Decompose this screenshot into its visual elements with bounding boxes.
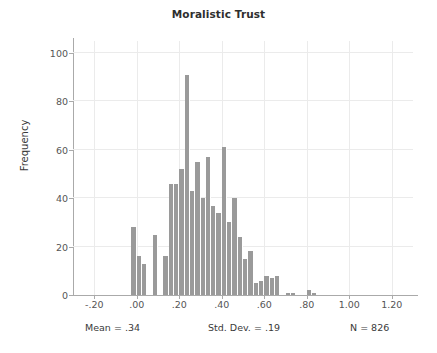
gridline-vertical — [307, 41, 308, 295]
y-axis-tick-mark — [69, 101, 73, 102]
y-axis-tick-label: 100 — [34, 48, 68, 59]
gridline-vertical — [349, 41, 350, 295]
histogram-bar — [153, 235, 158, 295]
y-axis-tick-mark — [69, 53, 73, 54]
y-axis-tick-labels: 020406080100 — [30, 41, 68, 295]
x-axis-line — [73, 295, 418, 296]
gridline-horizontal — [73, 52, 413, 53]
y-axis-tick-label: 80 — [34, 96, 68, 107]
x-axis-tick-mark — [264, 295, 265, 299]
x-axis-tick-mark — [392, 295, 393, 299]
chart-title: Moralistic Trust — [0, 8, 437, 20]
x-axis-tick-label: .60 — [241, 299, 287, 310]
x-axis-tick-label: .40 — [199, 299, 245, 310]
stat-mean: Mean = .34 — [85, 322, 140, 333]
x-axis-tick-mark — [179, 295, 180, 299]
gridline-vertical — [94, 41, 95, 295]
histogram-bar — [312, 293, 317, 295]
stat-std-dev: Std. Dev. = .19 — [208, 322, 280, 333]
x-axis-tick-mark — [307, 295, 308, 299]
y-axis-tick-label: 40 — [34, 193, 68, 204]
histogram-figure: Moralistic Trust Frequency 020406080100 … — [0, 0, 437, 353]
histogram-bar — [291, 293, 296, 295]
gridline-horizontal — [73, 100, 413, 101]
gridline-horizontal — [73, 149, 413, 150]
y-axis-tick-mark — [69, 295, 73, 296]
histogram-bar — [142, 264, 147, 295]
gridline-vertical — [392, 41, 393, 295]
gridline-vertical — [264, 41, 265, 295]
histogram-bar — [275, 276, 280, 295]
y-axis-tick-mark — [69, 198, 73, 199]
gridline-horizontal — [73, 197, 413, 198]
x-axis-tick-label: .20 — [156, 299, 202, 310]
gridline-horizontal — [73, 246, 413, 247]
footer-statistics: Mean = .34 Std. Dev. = .19 N = 826 — [60, 322, 420, 338]
x-axis-tick-label: .80 — [284, 299, 330, 310]
y-axis-tick-label: 60 — [34, 144, 68, 155]
y-axis-tick-label: 20 — [34, 241, 68, 252]
x-axis-tick-label: -.20 — [71, 299, 117, 310]
y-axis-tick-label: 0 — [34, 290, 68, 301]
y-axis-tick-mark — [69, 150, 73, 151]
stat-sample-size: N = 826 — [350, 322, 389, 333]
x-axis-tick-mark — [349, 295, 350, 299]
x-axis-tick-label: .00 — [114, 299, 160, 310]
y-axis-tick-mark — [69, 247, 73, 248]
x-axis-tick-label: 1.00 — [326, 299, 372, 310]
x-axis-tick-mark — [137, 295, 138, 299]
y-axis-label: Frequency — [19, 101, 30, 191]
x-axis-tick-mark — [94, 295, 95, 299]
x-axis-tick-mark — [222, 295, 223, 299]
x-axis-tick-label: 1.20 — [369, 299, 415, 310]
plot-area — [73, 41, 413, 295]
